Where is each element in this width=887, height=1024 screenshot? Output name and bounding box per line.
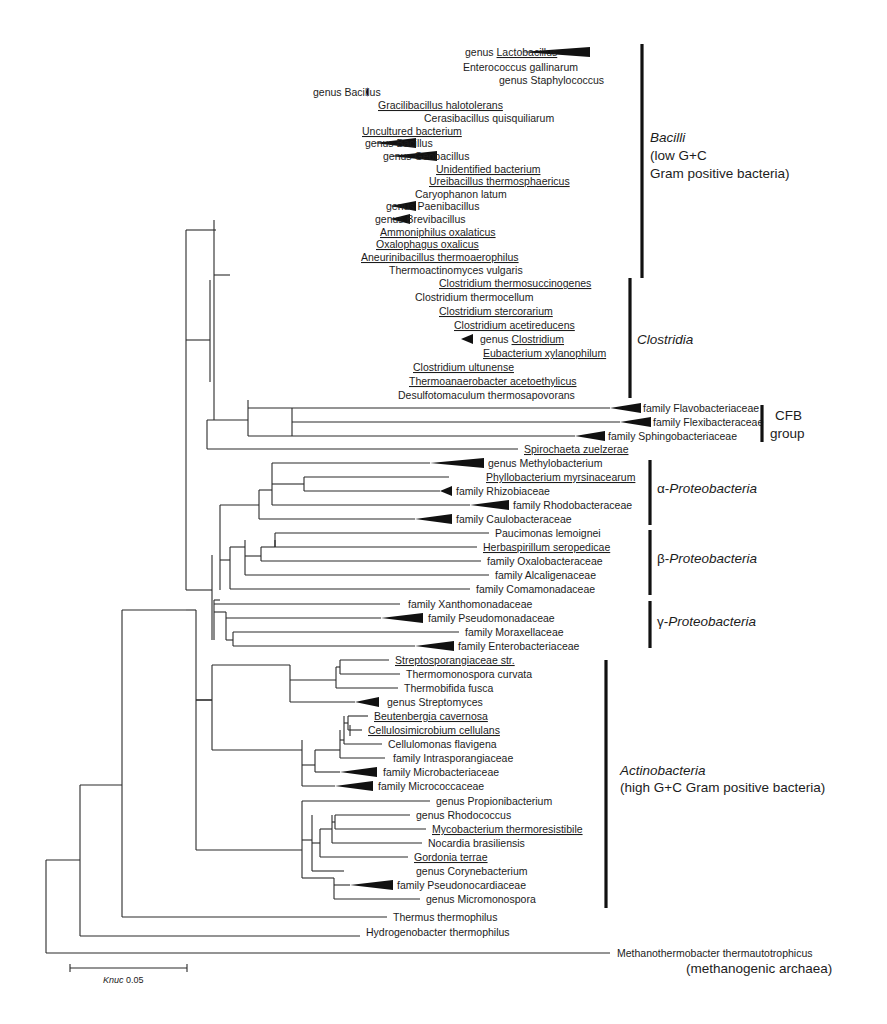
leaf-label: family Micrococcaceae	[378, 780, 484, 792]
leaf-label: Mycobacterium thermoresistibile	[432, 823, 583, 835]
leaf-label: Phyllobacterium myrsinacearum	[486, 471, 636, 483]
leaf-label: family Rhizobiaceae	[456, 485, 550, 497]
svg-text:Gram positive bacteria): Gram positive bacteria)	[650, 166, 790, 181]
leaf-label: Clostridium acetireducens	[454, 319, 575, 331]
collapsed-clade-wedge	[470, 500, 509, 510]
leaf-label: Gracilibacillus halotolerans	[378, 99, 503, 111]
collapsed-clade-wedge	[430, 458, 484, 468]
clade-label-alpha-proteobacteria: α-Proteobacteria	[657, 481, 758, 496]
clade-label-actinobacteria: Actinobacteria (high G+C Gram positive b…	[619, 763, 825, 795]
leaf-label: genus Lactobacillus	[465, 46, 557, 58]
leaf-label: Beutenbergia cavernosa	[374, 710, 488, 722]
leaf-label: genus Geobacillus	[383, 150, 469, 162]
scale-bar-label: Knuc 0.05	[103, 975, 144, 985]
phylogenetic-tree: genus LactobacillusEnterococcus gallinar…	[0, 0, 887, 1024]
leaf-label: family Rhodobacteraceae	[513, 499, 632, 511]
collapsed-clade-wedge	[355, 697, 379, 707]
leaf-label: Herbaspirillum seropedicae	[483, 541, 610, 553]
leaf-label: Clostridium thermosuccinogenes	[439, 277, 591, 289]
leaf-label: Cellulosimicrobium cellulans	[368, 724, 500, 736]
leaf-label: genus Clostridium	[480, 333, 564, 345]
leaf-label: genus Methylobacterium	[488, 457, 603, 469]
collapsed-clade-wedge	[350, 880, 393, 890]
collapsed-clade-wedge	[610, 403, 641, 413]
leaf-label: Eubacterium xylanophilum	[483, 347, 606, 359]
collapsed-clade-wedge	[461, 334, 473, 344]
leaf-label: family Intrasporangiaceae	[393, 752, 513, 764]
leaf-label: family Oxalobacteraceae	[487, 555, 603, 567]
leaf-label: Cerasibacillus quisquiliarum	[424, 112, 554, 124]
leaf-label: Paucimonas lemoignei	[495, 527, 601, 539]
leaf-label: genus Paenibacillus	[386, 200, 479, 212]
leaf-label: Caryophanon latum	[415, 188, 507, 200]
leaf-label: genus Corynebacterium	[416, 865, 528, 877]
leaf-label: Nocardia brasiliensis	[428, 837, 525, 849]
leaf-label: Ammoniphilus oxalaticus	[380, 226, 496, 238]
leaf-label: genus Bacillus	[365, 137, 433, 149]
leaf-label: Streptosporangiaceae str.	[395, 654, 515, 666]
leaf-label: family Comamonadaceae	[476, 583, 595, 595]
clade-label-clostridia: Clostridia	[637, 332, 694, 347]
leaf-label: Cellulomonas flavigena	[388, 738, 497, 750]
leaf-label: Unidentified bacterium	[436, 163, 541, 175]
leaf-label: family Flavobacteriaceae	[643, 402, 759, 414]
leaf-label: Desulfotomaculum thermosapovorans	[398, 389, 575, 401]
collapsed-clade-wedge	[440, 486, 452, 496]
leaf-label: family Xanthomonadaceae	[408, 598, 532, 610]
collapsed-clade-wedge	[620, 417, 651, 427]
leaf-label: Enterococcus gallinarum	[463, 61, 578, 73]
leaf-label: genus Propionibacterium	[436, 795, 552, 807]
collapsed-clade-wedge	[340, 767, 377, 777]
svg-text:Bacilli: Bacilli	[650, 130, 686, 145]
svg-text:(high G+C Gram positive bacter: (high G+C Gram positive bacteria)	[620, 780, 825, 795]
leaf-label: genus Micromonospora	[426, 893, 536, 905]
leaf-label: Methanothermobacter thermautotrophicus	[617, 947, 813, 959]
svg-text:group: group	[770, 426, 805, 441]
leaf-label: family Moraxellaceae	[465, 626, 564, 638]
leaf-label: genus Brevibacillus	[375, 213, 465, 225]
leaf-label: family Pseudomonadaceae	[428, 612, 555, 624]
collapsed-clade-wedge	[335, 781, 373, 791]
collapsed-clade-wedge	[415, 641, 454, 651]
leaf-label: Ureibacillus thermosphaericus	[429, 175, 570, 187]
svg-text:CFB: CFB	[775, 408, 802, 423]
leaf-label: Spirochaeta zuelzerae	[524, 443, 629, 455]
clade-label-gamma-proteobacteria: γ-Proteobacteria	[657, 614, 757, 629]
leaf-labels: genus LactobacillusEnterococcus gallinar…	[313, 46, 813, 959]
leaf-label: Thermobifida fusca	[404, 682, 493, 694]
leaf-label: Thermus thermophilus	[393, 911, 497, 923]
leaf-label: Oxalophagus oxalicus	[376, 238, 479, 250]
leaf-label: Clostridium stercorarium	[439, 305, 553, 317]
leaf-label: family Enterobacteriaceae	[458, 640, 580, 652]
leaf-label: Clostridium ultunense	[413, 361, 514, 373]
leaf-label: Clostridium thermocellum	[415, 291, 534, 303]
clade-label-cfb-group: CFB group	[770, 408, 805, 441]
leaf-label: family Caulobacteraceae	[456, 513, 572, 525]
leaf-label: Thermoanaerobacter acetoethylicus	[409, 375, 577, 387]
leaf-label: family Alcaligenaceae	[495, 569, 596, 581]
leaf-label: family Pseudonocardiaceae	[397, 879, 526, 891]
svg-text:Actinobacteria: Actinobacteria	[619, 763, 706, 778]
leaf-label: Aneurinibacillus thermoaerophilus	[361, 251, 519, 263]
leaf-label: family Microbacteriaceae	[383, 766, 499, 778]
collapsed-clade-wedge	[575, 431, 605, 441]
leaf-label: Uncultured bacterium	[362, 125, 462, 137]
collapsed-clade-wedge	[381, 613, 423, 623]
collapsed-clade-wedge	[415, 514, 452, 524]
leaf-label: family Flexibacteraceae	[653, 416, 763, 428]
outgroup-note: (methanogenic archaea)	[686, 961, 832, 976]
leaf-label: genus Bacillus	[313, 86, 381, 98]
leaf-label: Thermoactinomyces vulgaris	[389, 264, 523, 276]
clade-label-bacilli: Bacilli (low G+C Gram positive bacteria)	[650, 130, 790, 181]
scale-bar: Knuc 0.05	[70, 964, 187, 985]
leaf-label: genus Streptomyces	[387, 696, 483, 708]
leaf-label: Thermomonospora curvata	[406, 668, 532, 680]
leaf-label: genus Staphylococcus	[499, 74, 604, 86]
clade-label-beta-proteobacteria: β-Proteobacteria	[657, 551, 758, 566]
leaf-label: Hydrogenobacter thermophilus	[366, 926, 510, 938]
svg-text:(low G+C: (low G+C	[650, 148, 707, 163]
leaf-label: Gordonia terrae	[414, 851, 488, 863]
leaf-label: genus Rhodococcus	[416, 809, 511, 821]
leaf-label: family Sphingobacteriaceae	[608, 430, 737, 442]
